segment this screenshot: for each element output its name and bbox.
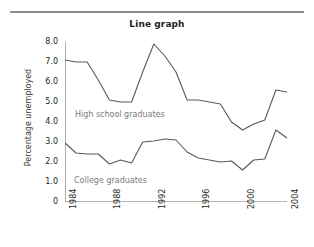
y-axis-tick-label: 6.0 xyxy=(32,77,58,86)
chart-title: Line graph xyxy=(0,19,314,29)
y-axis-tick-label: 8.0 xyxy=(32,37,58,46)
y-axis-tick-label: 2.0 xyxy=(32,157,58,166)
series-lines xyxy=(65,44,287,170)
line-graph-figure: Line graph Percentage unemployed 01.02.0… xyxy=(0,0,314,247)
y-axis-tick-label: 0 xyxy=(32,197,58,206)
y-axis-tick-label: 4.0 xyxy=(32,117,58,126)
series-line-college-graduates xyxy=(65,130,287,170)
y-axis-tick-label: 1.0 xyxy=(32,177,58,186)
y-axis-tick-label: 7.0 xyxy=(32,57,58,66)
series-label-college-graduates: College graduates xyxy=(74,176,147,185)
header-divider xyxy=(10,11,304,13)
series-label-high-school-graduates: High school graduates xyxy=(75,110,165,119)
y-axis-tick-label: 5.0 xyxy=(32,97,58,106)
x-axis-tick-label: 2004 xyxy=(291,189,300,209)
y-axis-tick-label: 3.0 xyxy=(32,137,58,146)
